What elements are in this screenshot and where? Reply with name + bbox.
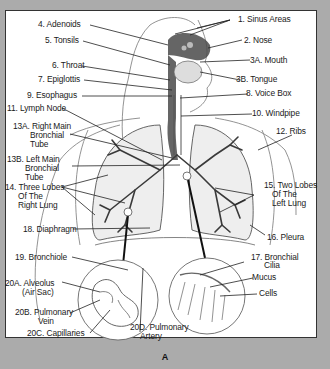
label-nose: 2. Nose bbox=[244, 36, 272, 45]
label-pulmonary-artery-2: Artery bbox=[140, 332, 162, 341]
label-mouth: 3A. Mouth bbox=[250, 56, 287, 65]
label-capillaries: 20C. Capillaries bbox=[27, 329, 85, 338]
label-tongue: 3B. Tongue bbox=[236, 75, 277, 84]
figure-caption: A bbox=[0, 352, 330, 362]
label-adenoids: 4. Adenoids bbox=[38, 20, 81, 29]
label-pulmonary-vein-2: Vein bbox=[38, 317, 54, 326]
label-voice-box: 8. Voice Box bbox=[246, 89, 291, 98]
label-cells: Cells bbox=[259, 289, 277, 298]
label-diaphragm: 18. Diaphragm bbox=[23, 225, 77, 234]
label-epiglottis: 7. Epiglottis bbox=[38, 75, 80, 84]
diaphragm bbox=[95, 238, 255, 246]
label-left-main-bronchial-3: Tube bbox=[25, 173, 43, 182]
label-bronchiole: 19. Bronchiole bbox=[15, 253, 67, 262]
label-ribs: 12. Ribs bbox=[276, 127, 306, 136]
label-right-main-bronchial-3: Tube bbox=[30, 140, 48, 149]
label-pleura: 16. Pleura bbox=[267, 233, 304, 242]
label-throat: 6. Throat bbox=[52, 61, 84, 70]
label-mucus: Mucus bbox=[252, 273, 276, 282]
label-three-lobes-3: Right Lung bbox=[18, 201, 58, 210]
label-bronchial-cilia-2: Cilia bbox=[264, 261, 280, 270]
label-two-lobes-3: Left Lung bbox=[272, 199, 306, 208]
label-alveolus-2: (Air Sac) bbox=[22, 288, 54, 297]
label-lymph-node: 11. Lymph Node bbox=[7, 104, 66, 113]
label-esophagus: 9. Esophagus bbox=[27, 91, 77, 100]
label-sinus-areas: 1. Sinus Areas bbox=[238, 15, 291, 24]
label-tonsils: 5. Tonsils bbox=[45, 36, 79, 45]
label-windpipe: 10. Windpipe bbox=[252, 109, 300, 118]
